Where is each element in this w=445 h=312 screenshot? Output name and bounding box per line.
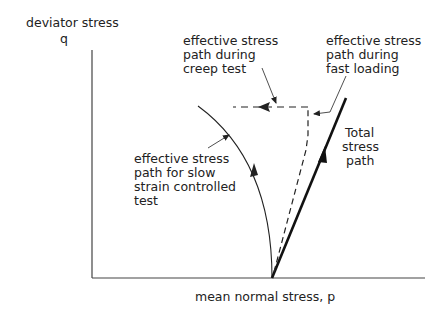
svg-text:effective stress: effective stress [134,151,229,166]
slow-path-label: effective stress path for slow strain co… [134,151,236,208]
slow-leader [208,135,229,148]
svg-text:path: path [346,153,374,168]
total-stress-label: Total stress path [342,125,379,168]
svg-text:stress: stress [342,139,379,154]
svg-text:effective stress: effective stress [183,33,278,48]
x-axis-label: mean normal stress, p [195,289,335,304]
svg-text:effective stress: effective stress [326,33,421,48]
svg-text:path during: path during [326,47,399,62]
y-axis-label: deviator stress [26,15,119,30]
svg-text:fast loading: fast loading [326,61,400,76]
svg-text:path for slow: path for slow [134,165,215,180]
svg-text:test: test [134,193,158,208]
fast-loading-path [274,107,308,272]
svg-text:path during: path during [183,47,256,62]
y-axis-symbol: q [60,31,68,46]
creep-leader [262,68,276,103]
creep-label: effective stress path during creep test [183,33,278,76]
fast-loading-label: effective stress path during fast loadin… [326,33,421,76]
stress-path-diagram: deviator stress q mean normal stress, p … [0,0,445,312]
svg-text:strain controlled: strain controlled [134,179,236,194]
total-stress-path [272,98,346,278]
svg-text:creep test: creep test [183,61,246,76]
svg-text:Total: Total [344,125,374,140]
